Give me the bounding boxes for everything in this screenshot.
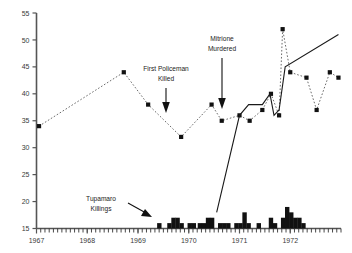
- data-point-marker: [304, 76, 308, 80]
- bar: [198, 223, 202, 228]
- x-tick-label: 1969: [130, 237, 146, 244]
- annotation-mitrione-murdered: Mitrione Murdered: [208, 35, 237, 109]
- bar: [234, 223, 238, 228]
- bar: [238, 223, 242, 228]
- solid-line-series: [217, 35, 339, 213]
- data-point-marker: [281, 27, 285, 31]
- bar: [285, 207, 289, 229]
- y-tick-label: 15: [22, 225, 30, 232]
- bar: [293, 218, 297, 229]
- x-tick-label: 1972: [282, 237, 298, 244]
- bar: [206, 218, 210, 229]
- bar: [301, 223, 305, 228]
- bar: [281, 218, 285, 229]
- data-point-marker: [248, 119, 252, 123]
- bar: [226, 223, 230, 228]
- bar: [210, 218, 214, 229]
- y-tick-label: 20: [22, 198, 30, 205]
- data-point-marker: [209, 102, 213, 106]
- x-tick-label: 1971: [232, 237, 248, 244]
- data-point-marker: [179, 135, 183, 139]
- bar: [222, 223, 226, 228]
- bar: [171, 218, 175, 229]
- annotation-first-policeman-killed-arrow-head: [162, 102, 170, 113]
- y-tick-label: 40: [22, 90, 30, 97]
- chart-plot: 152025303540455055 196719681969197019711…: [0, 0, 352, 253]
- dotted-series-markers: [37, 27, 341, 139]
- bar: [297, 218, 301, 229]
- y-tick-label: 30: [22, 144, 30, 151]
- annotation-tupamaro-killings-line2: Killings: [91, 205, 113, 213]
- tupamaro-killings-bar-series: [157, 207, 306, 229]
- annotation-first-policeman-killed-line1: First Policeman: [143, 65, 189, 72]
- dotted-series-path: [39, 29, 338, 137]
- annotation-first-policeman-killed-line2: Killed: [158, 75, 174, 82]
- bar: [218, 223, 222, 228]
- dotted-line-series: [37, 27, 341, 139]
- bar: [157, 223, 161, 228]
- annotation-mitrione-murdered-line1: Mitrione: [210, 35, 234, 42]
- bar: [257, 223, 261, 228]
- data-point-marker: [260, 108, 264, 112]
- solid-series-path: [217, 35, 339, 213]
- annotation-tupamaro-killings-arrow-head: [141, 209, 152, 217]
- y-tick-label: 45: [22, 63, 30, 70]
- x-tick-label: 1970: [181, 237, 197, 244]
- data-point-marker: [315, 108, 319, 112]
- axes-group: [37, 13, 342, 229]
- data-point-marker: [288, 70, 292, 74]
- data-point-marker: [122, 70, 126, 74]
- data-point-marker: [336, 76, 340, 80]
- x-tick-label: 1967: [29, 237, 45, 244]
- bar: [242, 212, 246, 228]
- bar: [167, 223, 171, 228]
- chart-container: 152025303540455055 196719681969197019711…: [0, 0, 352, 253]
- bar: [179, 223, 183, 228]
- annotation-tupamaro-killings-arrow-shaft: [128, 203, 146, 213]
- y-tick-label: 35: [22, 117, 30, 124]
- annotation-mitrione-murdered-arrow-head: [218, 98, 226, 109]
- bar: [273, 223, 277, 228]
- bar: [289, 212, 293, 228]
- data-point-marker: [146, 102, 150, 106]
- bar: [269, 218, 273, 229]
- x-tick-label: 1968: [79, 237, 95, 244]
- y-tick-label: 55: [22, 10, 30, 17]
- y-tick-label: 25: [22, 171, 30, 178]
- data-point-marker: [328, 70, 332, 74]
- data-point-marker: [277, 113, 281, 117]
- bar: [188, 223, 192, 228]
- bar: [175, 218, 179, 229]
- data-point-marker: [37, 124, 41, 128]
- bar: [246, 223, 250, 228]
- y-axis-ticks: 152025303540455055: [22, 10, 37, 233]
- annotation-mitrione-murdered-line2: Murdered: [208, 45, 237, 52]
- annotation-tupamaro-killings: Tupamaro Killings: [86, 195, 152, 217]
- bar: [202, 223, 206, 228]
- data-point-marker: [220, 119, 224, 123]
- y-tick-label: 50: [22, 37, 30, 44]
- annotation-tupamaro-killings-line1: Tupamaro: [86, 195, 116, 203]
- bar: [192, 223, 196, 228]
